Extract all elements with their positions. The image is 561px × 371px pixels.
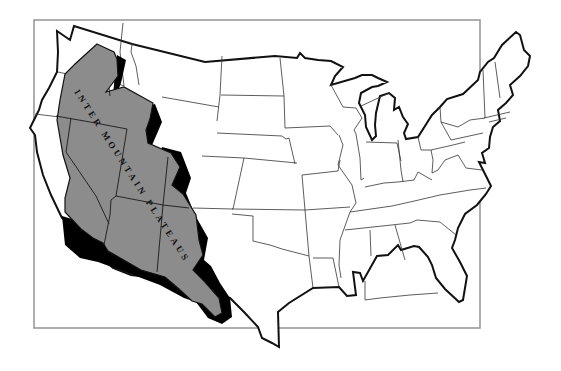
us-map: INTER MOUNTAIN PLATEAUS: [0, 0, 561, 371]
